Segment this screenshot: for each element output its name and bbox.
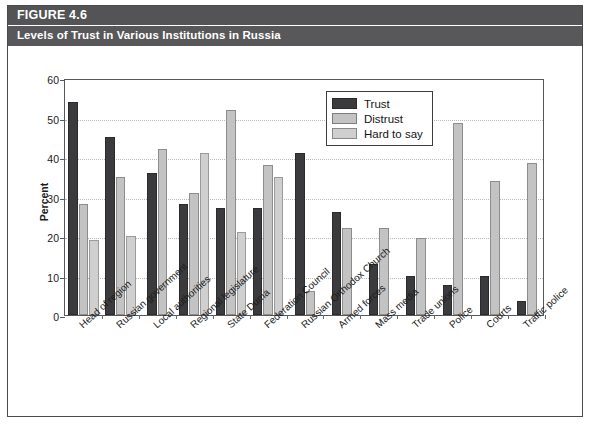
legend-item: Trust	[332, 96, 423, 111]
legend-label-hard-to-say: Hard to say	[364, 128, 423, 140]
x-tick-mark	[545, 315, 546, 319]
x-axis-labels: Head of regionRussian governmentLocal au…	[8, 46, 582, 156]
bar	[416, 238, 426, 315]
bar	[517, 301, 527, 315]
x-tick-mark	[176, 315, 177, 319]
x-tick-mark	[213, 315, 214, 319]
figure-number-label: FIGURE 4.6	[17, 8, 87, 22]
bar	[480, 276, 490, 316]
x-tick-mark	[434, 315, 435, 319]
x-tick-mark	[508, 315, 509, 319]
x-tick-mark	[323, 315, 324, 319]
y-tick-label: 0	[53, 311, 59, 323]
figure-title-band: Levels of Trust in Various Institutions …	[8, 26, 582, 46]
legend: Trust Distrust Hard to say	[326, 91, 433, 146]
legend-label-distrust: Distrust	[364, 113, 403, 125]
bar	[379, 228, 389, 315]
y-tick-label: 10	[47, 272, 59, 284]
x-tick-mark	[471, 315, 472, 319]
legend-swatch-trust	[332, 98, 357, 109]
legend-item: Distrust	[332, 111, 423, 126]
y-tick-label: 30	[47, 193, 59, 205]
bar	[527, 163, 537, 315]
figure-frame: FIGURE 4.6 Levels of Trust in Various In…	[7, 5, 583, 417]
x-tick-mark	[287, 315, 288, 319]
legend-swatch-hard-to-say	[332, 128, 357, 139]
y-tick-mark	[60, 317, 65, 318]
bar	[274, 177, 284, 315]
figure-title-text: Levels of Trust in Various Institutions …	[17, 29, 281, 41]
legend-swatch-distrust	[332, 113, 357, 124]
legend-label-trust: Trust	[364, 98, 390, 110]
legend-item: Hard to say	[332, 126, 423, 141]
x-tick-mark	[139, 315, 140, 319]
x-tick-mark	[102, 315, 103, 319]
x-tick-mark	[360, 315, 361, 319]
bar	[490, 181, 500, 315]
chart-area: Percent 0102030405060 Head of regionRuss…	[8, 46, 582, 416]
bar	[79, 204, 89, 315]
y-tick-label: 20	[47, 232, 59, 244]
x-tick-mark	[250, 315, 251, 319]
figure-number-band: FIGURE 4.6	[8, 6, 582, 26]
bar	[342, 228, 352, 315]
x-tick-mark	[397, 315, 398, 319]
